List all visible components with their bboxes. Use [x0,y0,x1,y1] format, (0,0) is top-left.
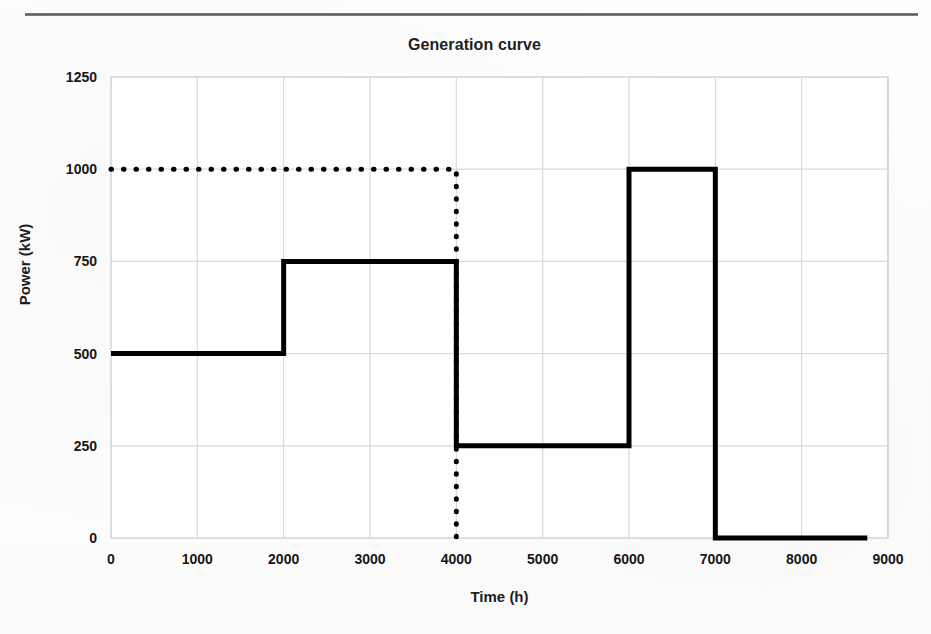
y-tick-label: 500 [74,346,98,362]
x-tick-label: 8000 [786,551,817,567]
x-tick-label: 0 [107,551,115,567]
x-tick-label: 5000 [527,551,558,567]
y-tick-labels: 025050075010001250 [66,69,97,546]
x-tick-label: 1000 [182,551,213,567]
x-tick-label: 3000 [354,551,385,567]
x-tick-label: 7000 [700,551,731,567]
x-tick-label: 2000 [268,551,299,567]
x-tick-labels: 0100020003000400050006000700080009000 [107,551,904,567]
y-tick-label: 750 [74,253,98,269]
plot-background [111,77,888,538]
plot-area: 0100020003000400050006000700080009000 02… [66,69,904,567]
y-tick-label: 0 [89,530,97,546]
generation-curve-chart: 0100020003000400050006000700080009000 02… [0,0,931,634]
x-tick-label: 9000 [872,551,903,567]
y-tick-label: 250 [74,438,98,454]
y-tick-label: 1000 [66,161,97,177]
x-tick-label: 6000 [613,551,644,567]
y-tick-label: 1250 [66,69,97,85]
x-tick-label: 4000 [441,551,472,567]
